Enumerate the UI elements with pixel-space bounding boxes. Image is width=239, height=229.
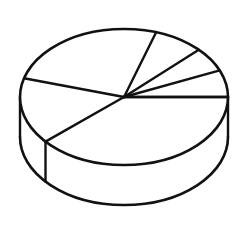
pie-chart-figure: pie 3D pie chart line drawing with six w… — [0, 0, 239, 229]
pie-chart-canvas — [0, 0, 239, 229]
